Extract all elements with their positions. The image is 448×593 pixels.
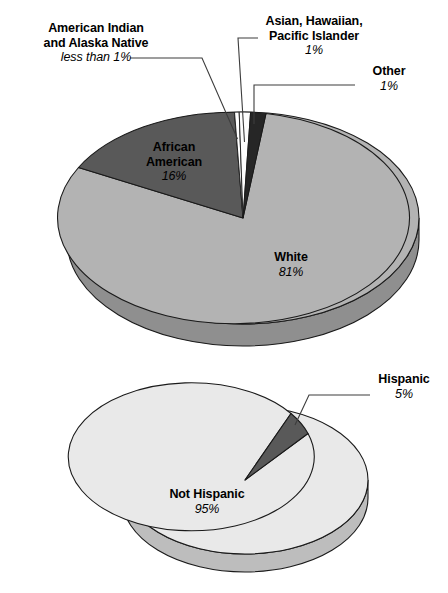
figure-canvas: American Indian and Alaska Native less t… bbox=[0, 0, 448, 593]
label-white-percent: 81% bbox=[243, 265, 339, 280]
label-african-american-line1: African bbox=[126, 140, 222, 155]
label-african-american-percent: 16% bbox=[126, 169, 222, 184]
label-asian-hawaiian-pacific-islander: Asian, Hawaiian, Pacific Islander 1% bbox=[240, 14, 388, 58]
label-hispanic: Hispanic 5% bbox=[362, 372, 446, 401]
label-white: White 81% bbox=[243, 250, 339, 279]
label-asian-line1: Asian, Hawaiian, bbox=[240, 14, 388, 29]
label-other: Other 1% bbox=[352, 64, 426, 93]
label-american-indian-and-alaska-native: American Indian and Alaska Native less t… bbox=[6, 21, 186, 65]
label-african-american-line2: American bbox=[126, 155, 222, 170]
race-pie-top-face bbox=[58, 112, 419, 324]
label-not-hispanic-percent: 95% bbox=[145, 502, 269, 517]
label-hispanic-name: Hispanic bbox=[362, 372, 446, 387]
label-african-american: African American 16% bbox=[126, 140, 222, 184]
label-other-percent: 1% bbox=[352, 79, 426, 94]
label-white-name: White bbox=[243, 250, 339, 265]
label-american-indian-line2: and Alaska Native bbox=[6, 36, 186, 51]
label-american-indian-percent: less than 1% bbox=[6, 50, 186, 65]
label-other-name: Other bbox=[352, 64, 426, 79]
ethnicity-pie-top-face bbox=[68, 383, 368, 554]
label-asian-percent: 1% bbox=[240, 43, 388, 58]
label-american-indian-line1: American Indian bbox=[6, 21, 186, 36]
label-not-hispanic-name: Not Hispanic bbox=[145, 487, 269, 502]
label-hispanic-percent: 5% bbox=[362, 387, 446, 402]
label-asian-line2: Pacific Islander bbox=[240, 29, 388, 44]
label-not-hispanic: Not Hispanic 95% bbox=[145, 487, 269, 516]
